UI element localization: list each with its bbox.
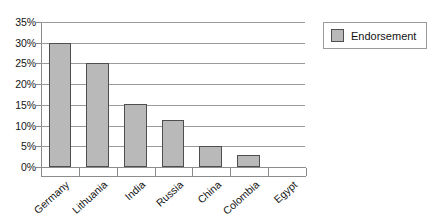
legend-swatch-endorsement	[331, 29, 344, 42]
y-tick-label: 0%	[0, 162, 36, 172]
bar-slot	[192, 22, 230, 167]
y-tick-label: 20%	[0, 79, 36, 89]
y-tick-label: 30%	[0, 38, 36, 48]
y-tick-label: 35%	[0, 17, 36, 27]
bar-russia[interactable]	[162, 120, 185, 167]
bar-slot	[154, 22, 192, 167]
legend-label-endorsement: Endorsement	[351, 30, 416, 42]
category-label-china: China	[196, 179, 224, 206]
bar-slot	[41, 22, 79, 167]
category-tick	[230, 168, 231, 176]
category-label-colombia: Colombia	[221, 179, 261, 217]
category-tick	[79, 168, 80, 176]
y-tick-label: 15%	[0, 100, 36, 110]
y-tick-label: 5%	[0, 141, 36, 151]
category-tick	[192, 168, 193, 176]
category-label-russia: Russia	[154, 179, 185, 209]
bar-india[interactable]	[124, 104, 147, 167]
bars-layer	[41, 22, 305, 167]
y-tick-label: 10%	[0, 121, 36, 131]
y-tick-label: 25%	[0, 58, 36, 68]
bar-lithuania[interactable]	[86, 63, 109, 167]
bar-slot	[116, 22, 154, 167]
chart-legend: Endorsement	[323, 22, 427, 49]
category-label-egypt: Egypt	[272, 179, 299, 205]
x-axis-category-labels: GermanyLithuaniaIndiaRussiaChinaColombia…	[41, 176, 306, 219]
category-tick	[306, 168, 307, 176]
category-tick	[155, 168, 156, 176]
bar-slot	[230, 22, 268, 167]
category-tick	[268, 168, 269, 176]
bar-slot	[267, 22, 305, 167]
category-label-lithuania: Lithuania	[71, 179, 110, 216]
plot-wrapper: 0%5%10%15%20%25%30%35% GermanyLithuaniaI…	[0, 0, 315, 219]
category-label-india: India	[123, 179, 147, 202]
y-axis-tick-labels: 0%5%10%15%20%25%30%35%	[0, 0, 36, 219]
bar-china[interactable]	[199, 146, 222, 167]
category-tick	[41, 168, 42, 176]
bar-germany[interactable]	[49, 43, 72, 167]
bar-colombia[interactable]	[237, 155, 260, 167]
x-axis-category-ticks	[41, 168, 306, 176]
bar-chart: 0%5%10%15%20%25%30%35% GermanyLithuaniaI…	[0, 0, 433, 219]
category-tick	[117, 168, 118, 176]
bar-slot	[79, 22, 117, 167]
